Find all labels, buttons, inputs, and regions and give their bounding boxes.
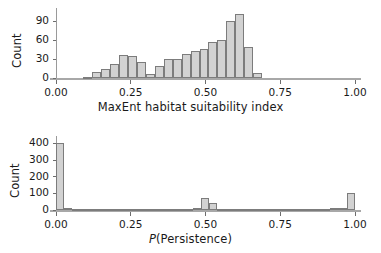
histogram-bar — [137, 209, 145, 211]
y-tick-mark — [53, 210, 57, 211]
histogram-bar — [72, 209, 80, 211]
y-tick-label: 300 — [19, 153, 49, 165]
histogram-bar — [306, 209, 314, 211]
x-tick-mark — [130, 80, 131, 84]
x-tick-mark — [56, 80, 57, 84]
histogram-bar — [208, 42, 217, 78]
histogram-bar — [235, 14, 244, 78]
histogram-bar — [101, 69, 110, 78]
x-tick-mark — [205, 80, 206, 84]
histogram-bar — [121, 209, 129, 211]
chart-panel-maxent: Count 03060900.000.250.500.751.00 MaxEnt… — [0, 0, 381, 127]
y-tick-label: 200 — [19, 170, 49, 182]
y-axis-line — [56, 8, 57, 78]
histogram-bar — [182, 54, 191, 78]
x-axis-label-bottom: P(Persistence) — [0, 232, 381, 246]
histogram-bar — [129, 209, 137, 211]
y-tick-mark — [53, 176, 57, 177]
histogram-bar — [226, 21, 235, 78]
histogram-bar — [266, 209, 274, 211]
y-tick-label: 0 — [19, 203, 49, 215]
histogram-bar — [83, 77, 92, 79]
y-tick-label: 400 — [19, 136, 49, 148]
histogram-bar — [200, 49, 209, 78]
histogram-bar — [330, 208, 338, 210]
histogram-bar — [96, 209, 104, 211]
histogram-bar — [201, 198, 209, 210]
histogram-bar — [298, 209, 306, 211]
histogram-bar — [234, 209, 242, 211]
x-tick-mark — [280, 80, 281, 84]
histogram-bar — [258, 209, 266, 211]
x-tick-label: 1.00 — [335, 86, 375, 98]
histogram-bar — [244, 47, 253, 78]
figure-two-histograms: Count 03060900.000.250.500.751.00 MaxEnt… — [0, 0, 381, 253]
histogram-bar — [110, 64, 119, 78]
histogram-bar — [339, 208, 347, 210]
histogram-bar — [217, 209, 225, 211]
y-tick-label: 90 — [19, 14, 49, 26]
histogram-bar — [161, 209, 169, 211]
histogram-bar — [242, 209, 250, 211]
y-tick-label: 60 — [19, 33, 49, 45]
histogram-bar — [92, 72, 101, 78]
histogram-bar — [128, 56, 137, 78]
x-tick-label: 0.75 — [260, 218, 300, 230]
y-tick-label: 0 — [19, 71, 49, 83]
y-tick-mark — [53, 21, 57, 22]
x-tick-label: 0.25 — [111, 218, 151, 230]
histogram-bar — [146, 74, 155, 78]
y-tick-label: 30 — [19, 52, 49, 64]
histogram-bar — [193, 208, 201, 210]
histogram-bar — [145, 209, 153, 211]
x-tick-mark — [280, 212, 281, 216]
histogram-bar — [177, 209, 185, 211]
histogram-bar — [250, 209, 258, 211]
plot-area-persistence: 01002003004000.000.250.500.751.00 — [56, 140, 355, 210]
histogram-bar — [226, 209, 234, 211]
x-axis-label-top: MaxEnt habitat suitability index — [0, 100, 381, 114]
plot-area-maxent: 03060900.000.250.500.751.00 — [56, 12, 355, 78]
histogram-bar — [282, 209, 290, 211]
x-tick-label: 0.00 — [36, 86, 76, 98]
y-tick-mark — [53, 59, 57, 60]
histogram-bar — [274, 209, 282, 211]
histogram-bar — [137, 62, 146, 78]
histogram-bar — [56, 143, 64, 210]
x-tick-mark — [355, 80, 356, 84]
x-tick-mark — [130, 212, 131, 216]
x-tick-label: 1.00 — [335, 218, 375, 230]
x-tick-label: 0.00 — [36, 218, 76, 230]
histogram-bar — [217, 40, 226, 78]
x-tick-label: 0.75 — [260, 86, 300, 98]
y-tick-mark — [53, 143, 57, 144]
y-tick-mark — [53, 40, 57, 41]
histogram-bar — [290, 209, 298, 211]
histogram-bar — [191, 51, 200, 78]
x-tick-mark — [355, 212, 356, 216]
histogram-bar — [64, 208, 72, 210]
y-tick-label: 100 — [19, 186, 49, 198]
histogram-bar — [253, 73, 262, 78]
histogram-bar — [119, 55, 128, 78]
histogram-bar — [322, 209, 330, 211]
histogram-bar — [209, 203, 217, 211]
histogram-bar — [153, 209, 161, 211]
histogram-bar — [80, 209, 88, 211]
histogram-bar — [164, 59, 173, 78]
histogram-bar — [173, 59, 182, 78]
histogram-bar — [113, 209, 121, 211]
x-tick-label: 0.25 — [111, 86, 151, 98]
y-tick-mark — [53, 78, 57, 79]
x-tick-mark — [205, 212, 206, 216]
histogram-bar — [88, 209, 96, 211]
y-tick-mark — [53, 193, 57, 194]
y-tick-mark — [53, 160, 57, 161]
histogram-bar — [347, 193, 355, 211]
histogram-bar — [169, 209, 177, 211]
chart-panel-persistence: Count 01002003004000.000.250.500.751.00 … — [0, 126, 381, 253]
histogram-bar — [155, 66, 164, 78]
histogram-bar — [185, 209, 193, 211]
x-tick-mark — [56, 212, 57, 216]
x-label-italic-part: P — [149, 232, 156, 246]
